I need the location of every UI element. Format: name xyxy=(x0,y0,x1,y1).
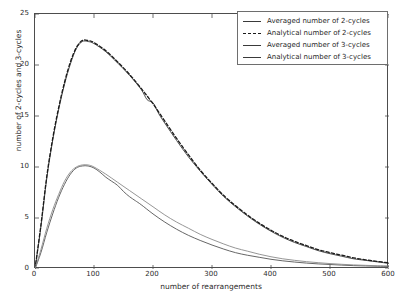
series-line xyxy=(35,41,389,269)
figure: 0 5 10 15 20 25 0 100 200 300 400 500 60… xyxy=(0,0,399,299)
legend-line-icon xyxy=(242,52,262,62)
series-line xyxy=(35,40,389,269)
legend-label: Averaged number of 3-cycles xyxy=(267,40,370,50)
y-axis-title: number of 2-cycles and 3-cycles xyxy=(14,21,23,161)
series-line xyxy=(35,165,389,269)
legend-dashed-line-icon xyxy=(242,28,262,38)
legend: Averaged number of 2-cycles Analytical n… xyxy=(237,11,388,65)
x-axis-title: number of rearrangements xyxy=(34,282,388,291)
legend-item: Analytical number of 3-cycles xyxy=(242,51,383,63)
x-tick-label: 200 xyxy=(145,270,158,278)
x-tick-label: 500 xyxy=(322,270,335,278)
legend-item: Averaged number of 2-cycles xyxy=(242,15,383,27)
x-tick-label: 600 xyxy=(381,270,394,278)
legend-item: Analytical number of 2-cycles xyxy=(242,27,383,39)
data-series-group xyxy=(35,40,389,269)
legend-label: Averaged number of 2-cycles xyxy=(267,16,370,26)
x-tick-label: 0 xyxy=(32,270,36,278)
legend-label: Analytical number of 3-cycles xyxy=(267,52,371,62)
legend-line-icon xyxy=(242,40,262,50)
x-tick-label: 100 xyxy=(86,270,99,278)
legend-label: Analytical number of 2-cycles xyxy=(267,28,371,38)
x-tick-label: 300 xyxy=(204,270,217,278)
legend-item: Averaged number of 3-cycles xyxy=(242,39,383,51)
series-line xyxy=(35,166,389,269)
x-tick-label: 400 xyxy=(263,270,276,278)
legend-line-icon xyxy=(242,16,262,26)
